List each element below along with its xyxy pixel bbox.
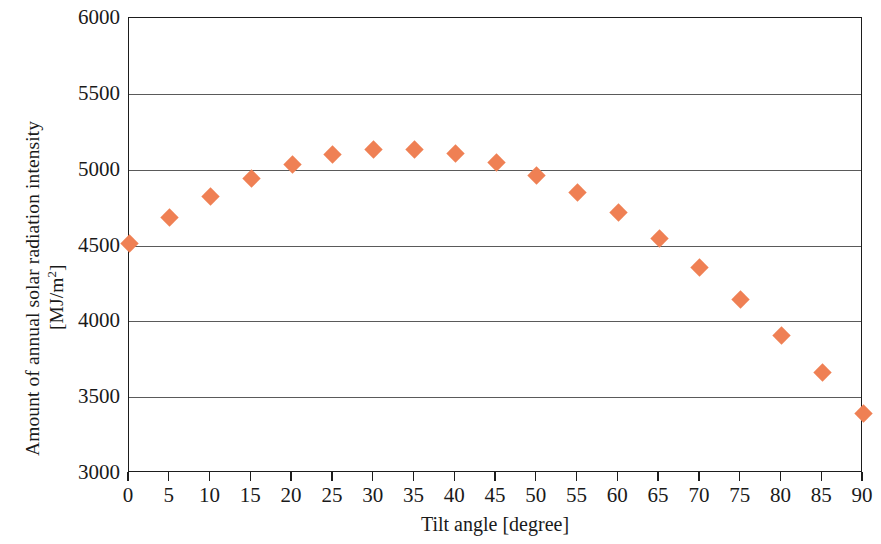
- data-point: [120, 234, 138, 252]
- y-axis-tick-label: 3500: [40, 386, 120, 407]
- x-axis-tick-mark: [739, 472, 740, 481]
- solar-radiation-tilt-angle-chart: Amount of annual solar radiation intensi…: [0, 0, 881, 544]
- x-axis-title: Tilt angle [degree]: [128, 512, 862, 536]
- data-point: [242, 169, 260, 187]
- data-series-layer: [129, 18, 861, 471]
- data-point: [283, 155, 301, 173]
- data-point: [568, 183, 586, 201]
- x-axis-tick-mark: [454, 472, 455, 481]
- x-axis-tick-mark: [168, 472, 169, 481]
- data-point: [324, 145, 342, 163]
- data-point: [487, 153, 505, 171]
- plot-area: [128, 17, 862, 472]
- data-point: [201, 187, 219, 205]
- data-point: [405, 140, 423, 158]
- data-point: [731, 290, 749, 308]
- x-axis-tick-labels: 051015202530354045505560657075808590: [128, 483, 862, 513]
- x-axis-tick-mark: [127, 472, 128, 481]
- data-point: [772, 327, 790, 345]
- x-axis-tick-mark: [250, 472, 251, 481]
- data-point: [854, 405, 872, 423]
- x-axis-tick-mark: [290, 472, 291, 481]
- x-axis-tick-mark: [535, 472, 536, 481]
- data-point: [161, 208, 179, 226]
- y-axis-tick-label: 4500: [40, 234, 120, 255]
- data-point: [446, 145, 464, 163]
- y-axis-tick-label: 3000: [40, 462, 120, 483]
- x-axis-tick-mark: [698, 472, 699, 481]
- x-axis-tick-mark: [657, 472, 658, 481]
- x-axis-tick-mark: [209, 472, 210, 481]
- x-axis-tick-mark: [576, 472, 577, 481]
- x-axis-tick-mark: [821, 472, 822, 481]
- y-axis-tick-label: 5500: [40, 82, 120, 103]
- x-axis-tick-mark: [861, 472, 862, 481]
- x-axis-tick-marks: [128, 472, 862, 482]
- y-axis-tick-label: 5000: [40, 158, 120, 179]
- data-point: [609, 203, 627, 221]
- data-point: [813, 364, 831, 382]
- y-axis-tick-label: 4000: [40, 310, 120, 331]
- x-axis-tick-label: 90: [832, 483, 881, 507]
- data-point: [650, 229, 668, 247]
- x-axis-tick-mark: [331, 472, 332, 481]
- x-axis-tick-mark: [780, 472, 781, 481]
- x-axis-tick-mark: [494, 472, 495, 481]
- y-axis-tick-labels: 3000350040004500500055006000: [40, 0, 120, 500]
- data-point: [691, 258, 709, 276]
- data-point: [364, 140, 382, 158]
- x-axis-tick-mark: [617, 472, 618, 481]
- x-axis-tick-mark: [413, 472, 414, 481]
- data-point: [528, 167, 546, 185]
- x-axis-tick-mark: [372, 472, 373, 481]
- y-axis-tick-label: 6000: [40, 7, 120, 28]
